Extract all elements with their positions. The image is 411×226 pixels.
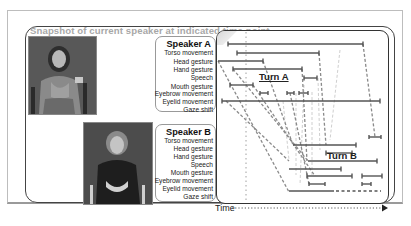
time-axis-label: Time [215,203,235,213]
speaker-a-bars [218,42,380,104]
turn-a-label: Turn A [259,71,289,82]
time-arrow-icon [382,205,388,212]
speaker-b-bars [289,135,382,191]
timeline-annotations [0,0,411,226]
turn-b-label: Turn B [327,150,357,161]
